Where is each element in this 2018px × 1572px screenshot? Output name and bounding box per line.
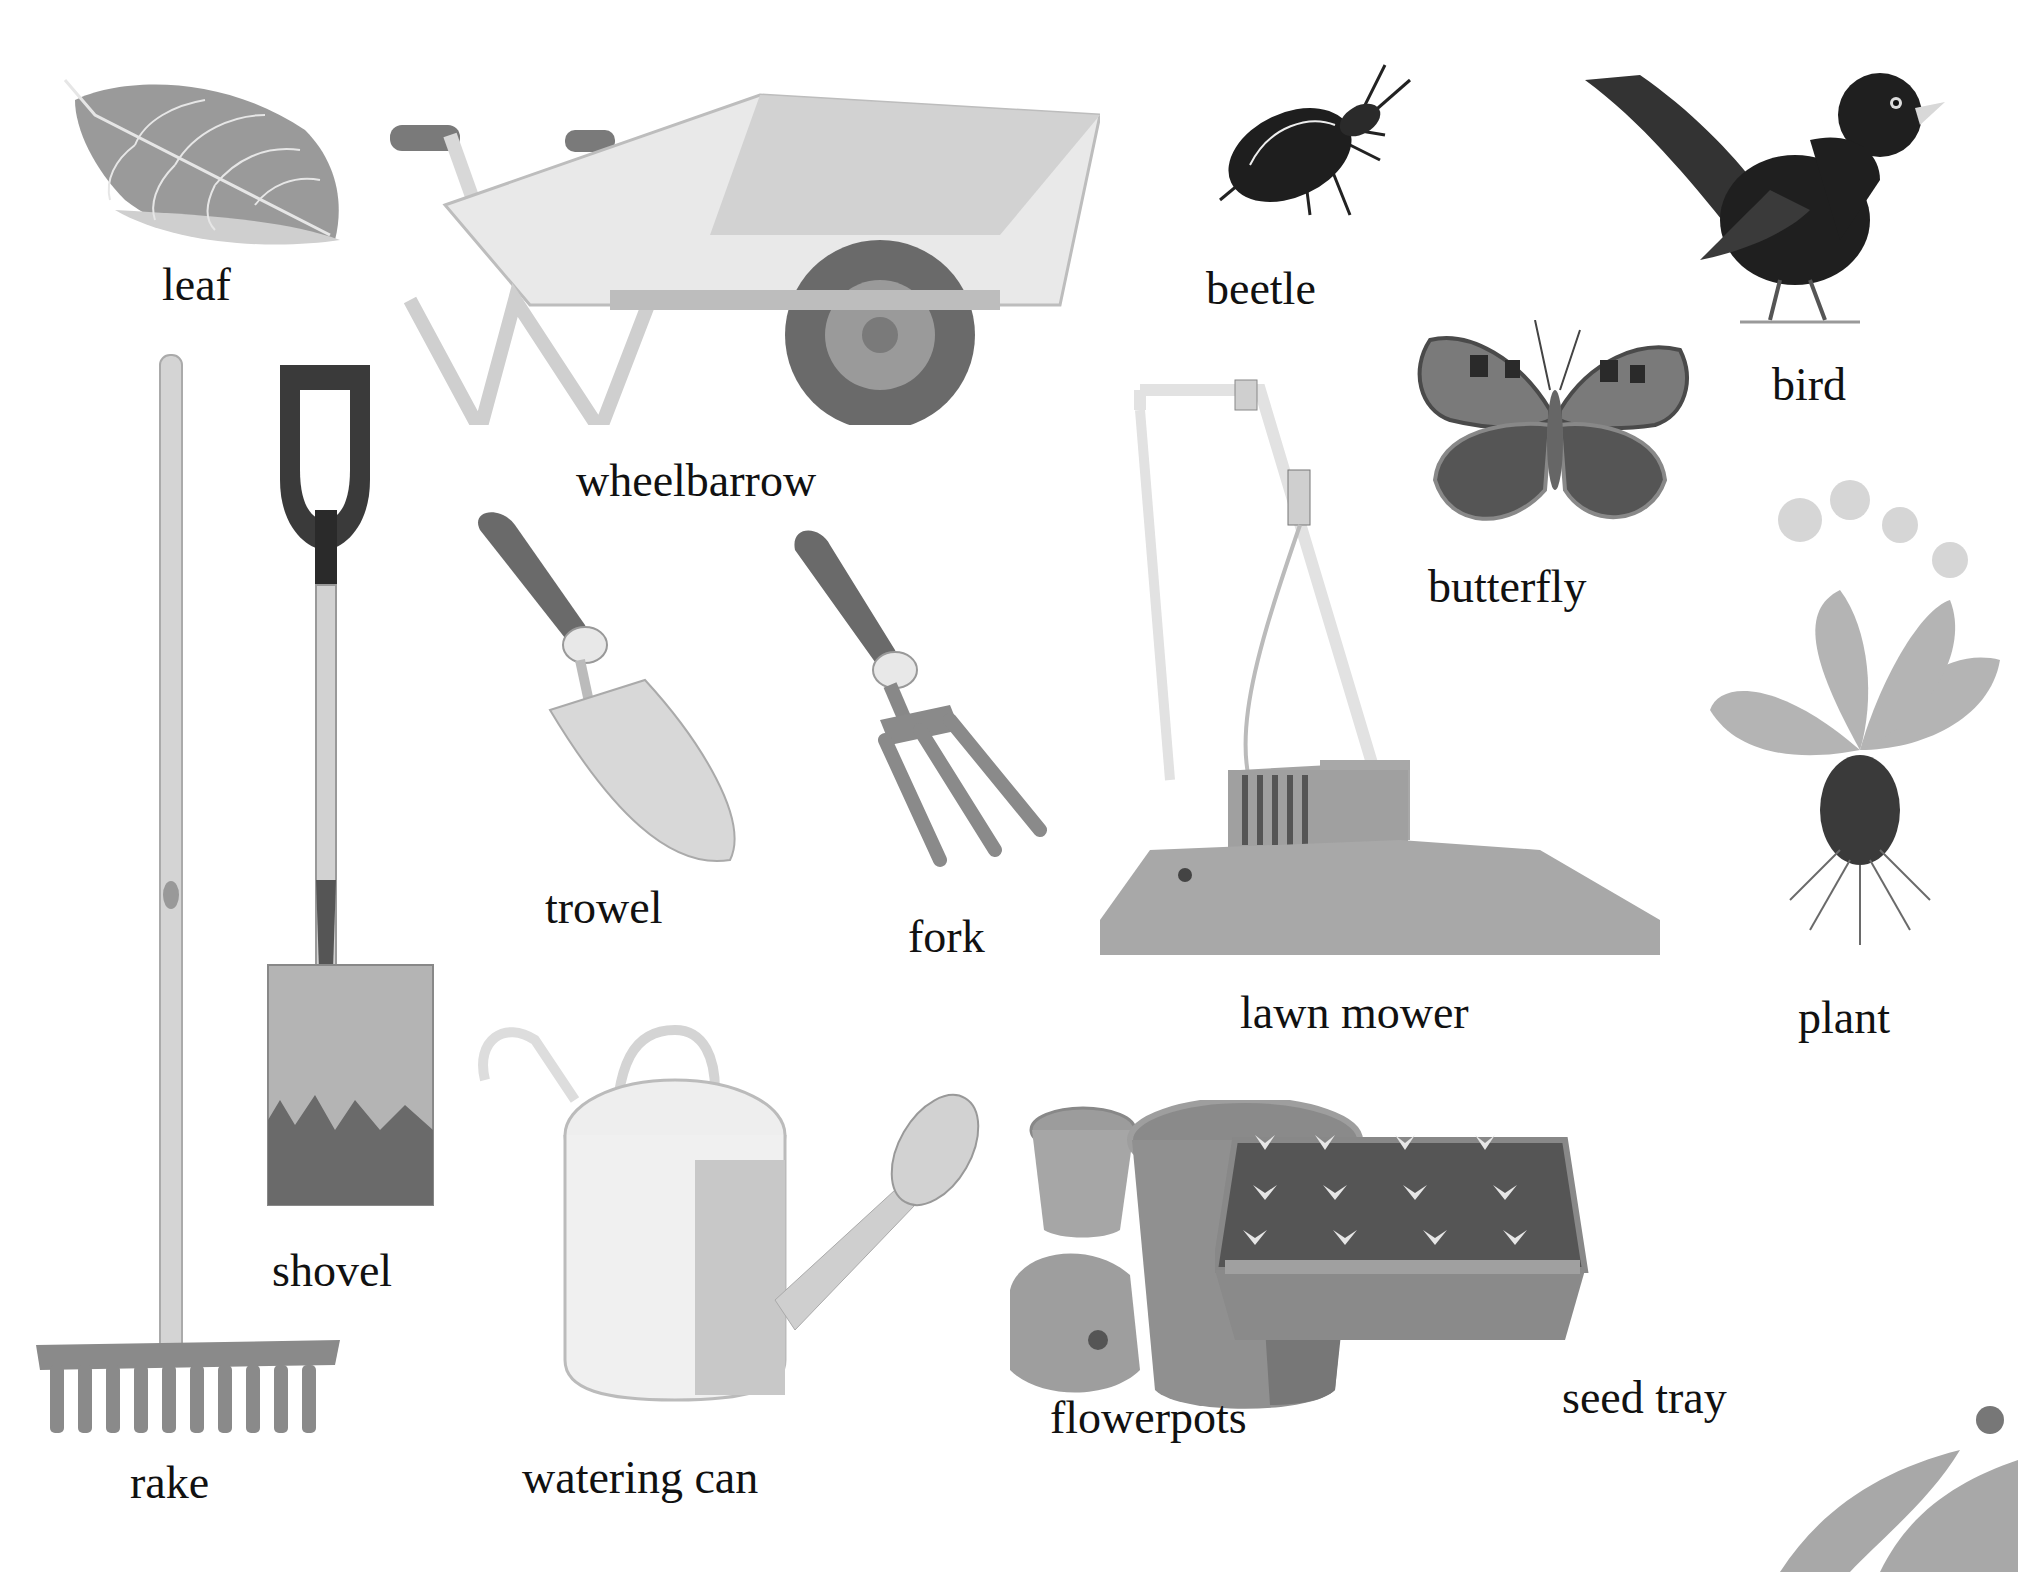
beetle-illustration [1210, 55, 1440, 225]
watering-can-label: watering can [522, 1455, 758, 1501]
trowel-label: trowel [545, 885, 663, 931]
wheelbarrow-label: wheelbarrow [576, 458, 816, 504]
lawn-mower-illustration [1100, 370, 1680, 970]
leaf-label: leaf [162, 262, 231, 308]
flowerpots-label: flowerpots [1050, 1395, 1247, 1441]
beetle-label: beetle [1206, 266, 1316, 312]
shovel-label: shovel [272, 1248, 392, 1294]
plant-label: plant [1798, 995, 1890, 1041]
trowel-illustration [470, 510, 770, 870]
fork-label: fork [908, 914, 985, 960]
fork-illustration [790, 530, 1120, 880]
seed-tray-label: seed tray [1562, 1375, 1727, 1421]
rake-label: rake [130, 1460, 209, 1506]
bird-label: bird [1772, 362, 1846, 408]
seed-tray-illustration [1215, 1120, 1595, 1350]
bird-illustration [1580, 70, 1960, 330]
leaf-illustration [55, 70, 355, 250]
shovel-illustration [260, 360, 490, 1220]
corner-foliage-decoration [1760, 1390, 2018, 1572]
watering-can-illustration [475, 1000, 995, 1410]
lawn-mower-label: lawn mower [1240, 990, 1469, 1036]
plant-illustration [1700, 480, 2018, 950]
